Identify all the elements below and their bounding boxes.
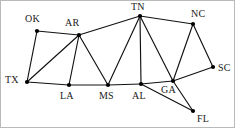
node-label-al: AL xyxy=(132,91,146,101)
graph-edge-ar-ms xyxy=(79,35,108,85)
node-label-tx: TX xyxy=(5,75,19,85)
node-label-ok: OK xyxy=(25,14,40,24)
graph-node-tx[interactable] xyxy=(25,80,29,84)
graph-edge-nc-ga xyxy=(173,24,193,81)
graph-edge-tn-ga xyxy=(140,16,173,81)
graph-edge-tn-al xyxy=(140,16,141,84)
edge-layer xyxy=(27,16,213,111)
graph-edge-ok-ar xyxy=(37,31,79,35)
graph-node-fl[interactable] xyxy=(191,109,195,113)
state-adjacency-graph: OKARTNNCTXLAMSALGASCFL xyxy=(0,0,235,128)
graph-node-tn[interactable] xyxy=(138,14,142,18)
graph-node-nc[interactable] xyxy=(191,22,195,26)
node-label-la: LA xyxy=(60,91,74,101)
node-label-tn: TN xyxy=(131,2,145,12)
graph-node-ok[interactable] xyxy=(35,29,39,33)
graph-node-al[interactable] xyxy=(139,82,143,86)
node-label-ms: MS xyxy=(99,91,114,101)
node-label-ar: AR xyxy=(65,18,79,28)
graph-edge-ga-fl xyxy=(173,81,193,111)
node-layer xyxy=(25,14,215,113)
node-label-nc: NC xyxy=(191,9,205,19)
graph-node-sc[interactable] xyxy=(211,65,215,69)
graph-node-la[interactable] xyxy=(67,83,71,87)
graph-edge-sc-ga xyxy=(173,67,213,81)
graph-edge-nc-sc xyxy=(193,24,213,67)
graph-edge-ms-al xyxy=(108,84,141,85)
node-label-sc: SC xyxy=(218,63,231,73)
node-label-ga: GA xyxy=(161,85,176,95)
graph-edge-tn-nc xyxy=(140,16,193,24)
graph-node-ar[interactable] xyxy=(77,33,81,37)
graph-node-ga[interactable] xyxy=(171,79,175,83)
graph-node-ms[interactable] xyxy=(106,83,110,87)
graph-edge-ar-tn xyxy=(79,16,140,35)
graph-edge-tx-la xyxy=(27,82,69,85)
node-label-fl: FL xyxy=(197,114,209,124)
graph-edge-ms-tn xyxy=(108,16,140,85)
